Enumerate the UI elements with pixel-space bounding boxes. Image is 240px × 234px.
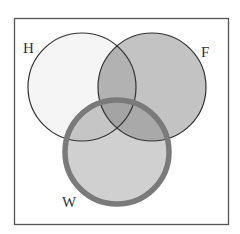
set-h-label: H bbox=[23, 40, 34, 56]
set-w-label: W bbox=[62, 194, 77, 210]
set-f-label: F bbox=[201, 44, 209, 60]
venn-diagram: H F W bbox=[0, 0, 240, 234]
